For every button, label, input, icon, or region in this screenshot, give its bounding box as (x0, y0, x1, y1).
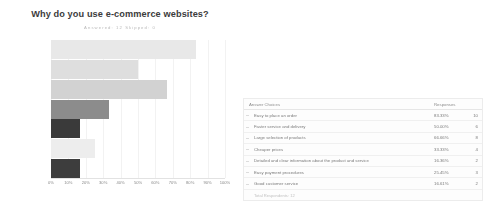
bar (51, 100, 109, 119)
x-axis-line (51, 178, 225, 179)
x-axis-tick: 100% (220, 180, 230, 185)
responses-table: Answer Choices Responses Easy to place a… (243, 98, 483, 201)
total-respondents-label: Total Respondents: 12 (248, 193, 478, 198)
cell-response-percent: 16.36% (434, 158, 464, 163)
table-row: Detailed and clear information about the… (244, 156, 482, 167)
bar (51, 139, 95, 158)
cell-answer-choice: Faster service and delivery (248, 124, 434, 129)
table-row: Easy to place an order83.33%10 (244, 110, 482, 121)
x-axis-tick: 20% (82, 180, 90, 185)
bar (51, 40, 196, 59)
cell-answer-choice: Good customer service (248, 181, 434, 186)
chart-panel: Why do you use e-commerce websites? Answ… (0, 0, 240, 213)
x-axis-tick: 60% (151, 180, 159, 185)
table-header-row: Answer Choices Responses (244, 99, 482, 110)
bar-fill (51, 80, 167, 99)
table-row: Faster service and delivery50.00%6 (244, 121, 482, 132)
x-axis-tick: 90% (203, 180, 211, 185)
cell-response-count: 2 (464, 181, 478, 186)
cell-answer-choice: Cheaper prices (248, 147, 434, 152)
bar-fill (51, 100, 109, 119)
cell-answer-choice: Easy payment procedures (248, 170, 434, 175)
cell-response-percent: 25.45% (434, 170, 464, 175)
table-footer-total-respondents: Total Respondents: 12 (244, 190, 482, 201)
gridline (190, 40, 191, 178)
row-bullet-icon (246, 149, 249, 150)
bar (51, 159, 80, 178)
gridline (225, 40, 226, 178)
row-bullet-icon (246, 138, 249, 139)
row-bullet-icon (246, 184, 249, 185)
table-row: Cheaper prices33.33%4 (244, 144, 482, 155)
chart-title: Why do you use e-commerce websites? (0, 9, 240, 19)
bar-fill (51, 40, 196, 59)
cell-response-count: 4 (464, 147, 478, 152)
bar-fill (51, 139, 95, 158)
chart-subtitle: Answered: 12 Skipped: 0 (0, 25, 240, 30)
row-bullet-icon (246, 127, 249, 128)
cell-response-count: 3 (464, 170, 478, 175)
cell-response-percent: 83.33% (434, 113, 464, 118)
x-axis-tick: 10% (64, 180, 72, 185)
cell-response-count: 2 (464, 158, 478, 163)
table-body: Easy to place an order83.33%10Faster ser… (244, 110, 482, 190)
table-row: Easy payment procedures25.45%3 (244, 167, 482, 178)
cell-response-count: 6 (464, 124, 478, 129)
cell-answer-choice: Easy to place an order (248, 113, 434, 118)
cell-response-count: 8 (464, 135, 478, 140)
cell-response-count: 10 (464, 113, 478, 118)
x-axis-tick: 40% (116, 180, 124, 185)
gridline (173, 40, 174, 178)
gridline (208, 40, 209, 178)
bar (51, 80, 167, 99)
x-axis-tick: 80% (186, 180, 194, 185)
row-bullet-icon (246, 172, 249, 173)
bar-fill (51, 119, 80, 138)
bar-chart-plot-area (51, 40, 225, 178)
x-axis-tick: 50% (134, 180, 142, 185)
x-axis-tick-labels: 0%10%20%30%40%50%60%70%80%90%100% (0, 180, 240, 190)
cell-response-percent: 33.33% (434, 147, 464, 152)
row-bullet-icon (246, 161, 249, 162)
gridline (138, 40, 139, 178)
cell-response-percent: 50.00% (434, 124, 464, 129)
x-axis-tick: 30% (99, 180, 107, 185)
row-bullet-icon (246, 115, 249, 116)
x-axis-tick: 0% (48, 180, 54, 185)
bar-fill (51, 159, 80, 178)
bar-fill (51, 60, 138, 79)
cell-answer-choice: Large selection of products (248, 135, 434, 140)
column-header-responses: Responses (434, 102, 478, 107)
gridline (155, 40, 156, 178)
table-row: Good customer service16.61%2 (244, 178, 482, 189)
x-axis-tick: 70% (169, 180, 177, 185)
column-header-answer-choices: Answer Choices (248, 102, 434, 107)
bar (51, 60, 138, 79)
table-row: Large selection of products66.66%8 (244, 133, 482, 144)
cell-answer-choice: Detailed and clear information about the… (248, 158, 434, 163)
bar (51, 119, 80, 138)
cell-response-percent: 16.61% (434, 181, 464, 186)
cell-response-percent: 66.66% (434, 135, 464, 140)
